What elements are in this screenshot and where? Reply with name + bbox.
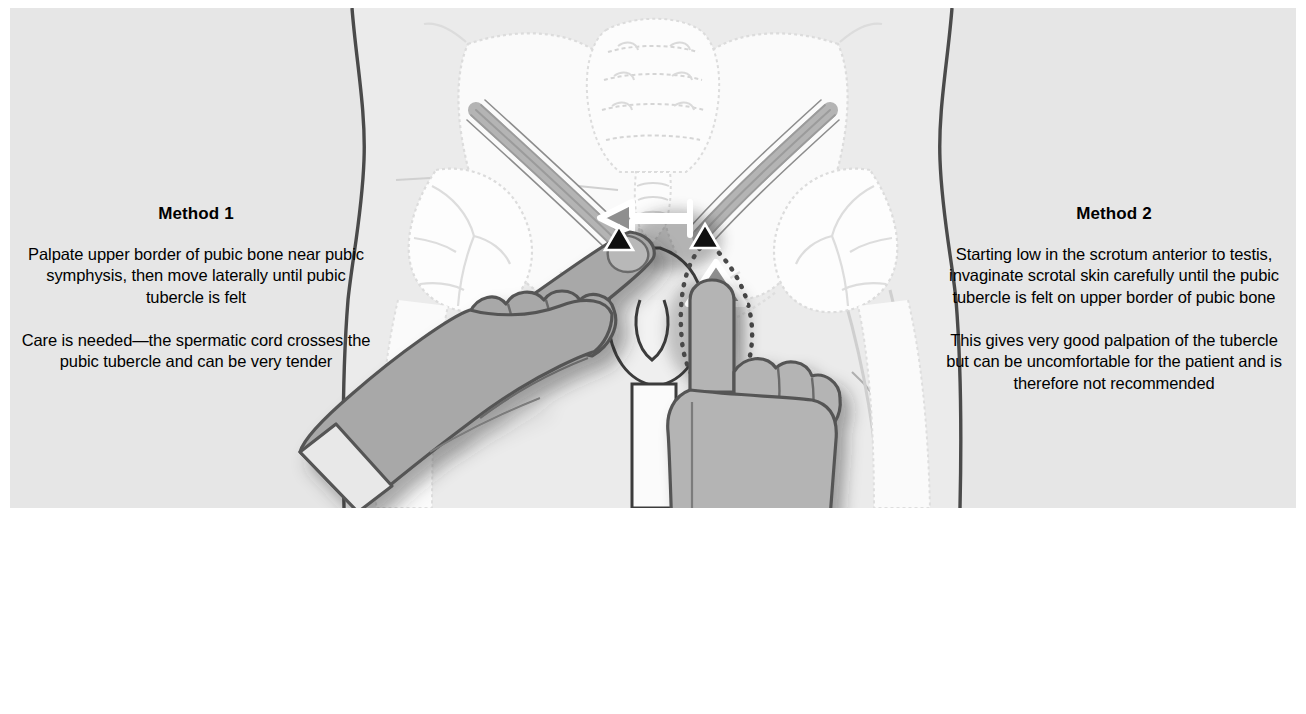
method-2-paragraph-2: This gives very good palpation of the tu… [938,330,1290,394]
method-2-panel: Method 2 Starting low in the scrotum ant… [938,205,1290,394]
method-2-title: Method 2 [938,205,1290,224]
illustration-stage: Method 1 Palpate upper border of pubic b… [0,0,1306,714]
method-1-paragraph-1: Palpate upper border of pubic bone near … [20,244,372,308]
method-1-paragraph-2: Care is needed—the spermatic cord crosse… [20,330,372,373]
method-1-panel: Method 1 Palpate upper border of pubic b… [20,205,372,373]
method-1-title: Method 1 [20,205,372,224]
method-2-paragraph-1: Starting low in the scrotum anterior to … [938,244,1290,308]
